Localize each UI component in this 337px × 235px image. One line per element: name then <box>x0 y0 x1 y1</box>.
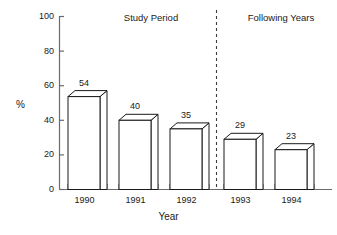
bar-1991-top <box>119 114 158 120</box>
bar-1990-side <box>100 91 107 190</box>
x-tick-label-1994: 1994 <box>264 196 319 205</box>
bar-value-label-1994: 23 <box>267 132 315 141</box>
y-tick-label-40: 40 <box>28 116 54 125</box>
bar-1991-front <box>119 120 151 189</box>
x-tick-label-1991: 1991 <box>108 196 163 205</box>
bar-1991[interactable] <box>119 114 158 189</box>
y-tick-label-0: 0 <box>28 185 54 194</box>
x-tick-label-1992: 1992 <box>159 196 214 205</box>
bar-1993-front <box>224 139 256 189</box>
bar-1994[interactable] <box>275 144 314 190</box>
bar-1994-front <box>275 150 307 190</box>
bar-value-label-1991: 40 <box>111 102 159 111</box>
bar-1992[interactable] <box>170 123 209 190</box>
y-tick-label-80: 80 <box>28 47 54 56</box>
y-tick-label-20: 20 <box>28 150 54 159</box>
bar-value-label-1993: 29 <box>216 121 264 130</box>
bar-1993-side <box>256 133 263 189</box>
y-axis-ticks <box>60 17 65 190</box>
bar-1994-top <box>275 144 314 150</box>
annotation-study-period: Study Period <box>96 13 206 23</box>
bar-1993[interactable] <box>224 133 263 189</box>
bar-1990-front <box>68 97 100 190</box>
y-tick-label-100: 100 <box>28 12 54 21</box>
bar-1991-side <box>151 114 158 189</box>
bar-1992-front <box>170 129 202 190</box>
y-axis-title: % <box>16 100 25 110</box>
bar-value-label-1990: 54 <box>60 79 108 88</box>
y-tick-label-60: 60 <box>28 81 54 90</box>
x-tick-label-1993: 1993 <box>213 196 268 205</box>
bar-1994-side <box>307 144 314 190</box>
annotation-following-years: Following Years <box>226 13 336 23</box>
bar-1990-top <box>68 91 107 97</box>
x-tick-label-1990: 1990 <box>57 196 112 205</box>
bar-1993-top <box>224 133 263 139</box>
bar-1992-top <box>170 123 209 129</box>
bar-1992-side <box>202 123 209 190</box>
bar-1990[interactable] <box>68 91 107 190</box>
chart-figure: 100 80 60 40 20 0 % 1990 1991 1992 1993 … <box>0 0 337 235</box>
x-axis-title: Year <box>0 212 337 222</box>
bar-value-label-1992: 35 <box>162 111 210 120</box>
